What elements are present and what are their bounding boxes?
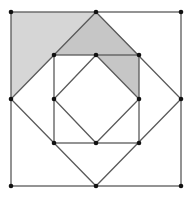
geometry-figure (0, 0, 190, 197)
